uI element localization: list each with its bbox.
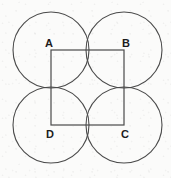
figure-background xyxy=(0,0,171,178)
geometry-figure: A B C D xyxy=(0,0,171,178)
vertex-label-a: A xyxy=(45,37,53,49)
figure-canvas: A B C D xyxy=(0,0,171,178)
vertex-label-b: B xyxy=(122,37,130,49)
vertex-label-c: C xyxy=(121,128,129,140)
vertex-label-d: D xyxy=(46,128,54,140)
